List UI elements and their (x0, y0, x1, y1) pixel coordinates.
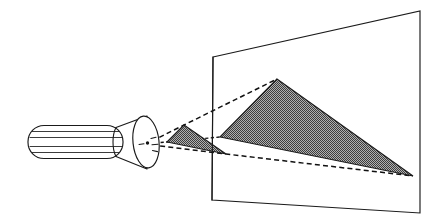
projector-group (28, 115, 162, 169)
plane-left-edge-overlay (212, 57, 213, 200)
emission-tick-1 (139, 144, 144, 145)
diagram-canvas (0, 0, 437, 220)
emission-tick-3 (152, 144, 158, 145)
plane-left-edge (212, 57, 213, 200)
center-of-projection-dot (146, 141, 149, 144)
projection-diagram-figure (0, 0, 437, 220)
projector-barrel (28, 126, 123, 159)
